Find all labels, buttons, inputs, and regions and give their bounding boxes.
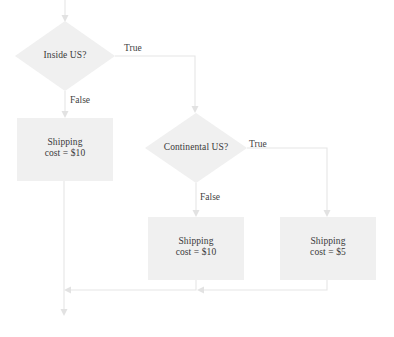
flowchart-svg [0,0,394,337]
edge-spine-exit [61,181,68,316]
edge-inside-us-true [115,56,199,113]
edge-entry-to-inside-us [62,0,69,22]
edge-merge-middle [64,280,196,294]
edge-label-false-inside-us: False [70,95,90,106]
edge-merge-right [197,280,327,294]
flowchart-canvas: Inside US? Shipping cost = $10 Continent… [0,0,394,337]
node-continental-us[interactable] [145,113,247,183]
node-inside-us[interactable] [15,21,115,91]
edge-label-true-continental-us: True [249,139,267,150]
edge-continental-us-true [247,148,331,217]
edge-label-true-inside-us: True [124,43,142,54]
node-shipping-5-continental[interactable] [280,217,376,280]
edge-continental-us-false [193,183,200,217]
edge-inside-us-false [62,91,69,118]
node-shipping-10-noncontinental[interactable] [148,217,244,280]
edge-label-false-continental-us: False [200,192,220,203]
node-shipping-10-international[interactable] [17,118,113,181]
